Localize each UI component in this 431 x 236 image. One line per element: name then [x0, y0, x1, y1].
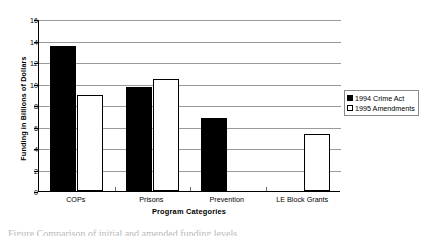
- bar-le-block-grants-series-1: [304, 134, 330, 191]
- legend-entry-label: 1995 Amendments: [355, 104, 415, 113]
- x-axis-title: Program Categories: [38, 207, 340, 216]
- bar-prisons-series-1: [153, 79, 179, 191]
- y-axis-tick-mark: [34, 128, 38, 129]
- bar-group: [266, 19, 342, 191]
- filled-square-icon: [347, 95, 353, 101]
- legend-entry: 1995 Amendments: [347, 103, 415, 113]
- bar-group: [39, 19, 115, 191]
- x-axis-tick-label: Prevention: [189, 195, 265, 204]
- legend-entry-label: 1994 Crime Act: [355, 94, 404, 103]
- x-axis-tick-label: COPs: [38, 195, 114, 204]
- legend-entry: 1994 Crime Act: [347, 93, 415, 103]
- bar-prisons-series-0: [126, 87, 152, 191]
- y-axis-tick-mark: [34, 85, 38, 86]
- chart-legend: 1994 Crime Act1995 Amendments: [344, 90, 419, 116]
- y-axis-tick-mark: [34, 171, 38, 172]
- x-axis-tick-label: Prisons: [114, 195, 190, 204]
- bar-prevention-series-0: [201, 118, 227, 191]
- figure-caption: Figure Comparison of initial and amended…: [8, 228, 423, 236]
- bar-group: [115, 19, 191, 191]
- y-axis-tick-mark: [34, 42, 38, 43]
- hollow-square-icon: [347, 105, 353, 111]
- bar-cops-series-1: [77, 95, 103, 191]
- bar-group: [190, 19, 266, 191]
- y-axis-tick-mark: [34, 149, 38, 150]
- x-axis-tick-label: LE Block Grants: [265, 195, 341, 204]
- x-axis-tick-labels: COPsPrisonsPreventionLE Block Grants: [38, 195, 340, 206]
- bar-chart-figure: Funding in Billions of Dollars 024681012…: [0, 0, 431, 236]
- y-axis-tick-mark: [34, 63, 38, 64]
- plot-area: [38, 20, 340, 192]
- y-axis-tick-mark: [34, 20, 38, 21]
- y-axis-tick-mark: [34, 192, 38, 193]
- bar-cops-series-0: [50, 46, 76, 191]
- y-axis-tick-mark: [34, 106, 38, 107]
